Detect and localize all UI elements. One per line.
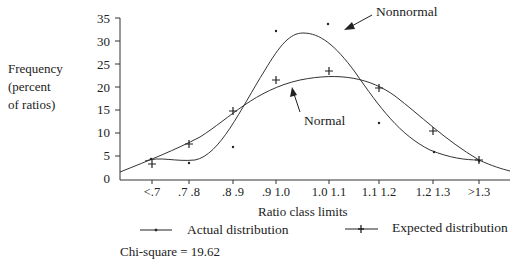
x-tick-label: .9 1.0 [262, 185, 290, 200]
nonnormal-curve [145, 33, 479, 161]
x-tick-label: 1.2 1.3 [416, 185, 450, 200]
x-tick-label: 1.1 1.2 [362, 185, 396, 200]
axes [115, 18, 510, 184]
x-axis-label: Ratio class limits [258, 204, 348, 220]
x-tick-label: .8 .9 [222, 185, 244, 200]
actual-points [150, 23, 480, 164]
x-tick-label: 1.0 1.1 [312, 185, 346, 200]
legend-actual-glyph [140, 229, 172, 231]
legend-expected-glyph [345, 225, 378, 233]
legend-expected-label: Expected distribution [392, 220, 508, 236]
x-tick-label: .7 .8 [178, 185, 200, 200]
legend-actual-label: Actual distribution [187, 222, 289, 238]
normal-arrow [290, 87, 300, 112]
normal-annotation: Normal [304, 113, 345, 129]
nonnormal-annotation: Nonnormal [376, 4, 438, 20]
chi-square-text: Chi-square = 19.62 [120, 244, 220, 260]
nonnormal-arrow [344, 15, 372, 30]
x-tick-label: >1.3 [468, 185, 491, 200]
x-tick-label: <.7 [144, 185, 160, 200]
